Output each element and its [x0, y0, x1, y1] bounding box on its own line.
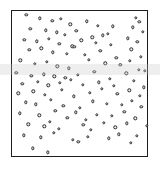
scatter-point: [85, 20, 88, 23]
scatter-point: [86, 135, 89, 138]
scatter-point: [110, 114, 113, 117]
scatter-point: [90, 36, 93, 39]
scatter-point: [45, 60, 48, 63]
scatter-point: [101, 34, 104, 37]
scatter-point: [57, 127, 60, 130]
scatter-point: [97, 81, 100, 84]
scatter-point: [142, 86, 145, 89]
scatter-point: [63, 33, 66, 36]
scatter-point: [19, 59, 22, 62]
scatter-point: [109, 43, 112, 46]
scatter-point: [94, 41, 97, 44]
scatter-point: [58, 42, 61, 45]
scatter-point: [14, 71, 17, 74]
scatter-point: [23, 38, 26, 41]
scatter-point: [114, 125, 117, 128]
scatter-point: [77, 140, 80, 143]
scatter-point: [60, 88, 63, 91]
scatter-point: [32, 89, 35, 92]
scatter-point: [49, 98, 52, 101]
scatter-point: [89, 128, 92, 131]
scatter-point: [111, 25, 114, 28]
scatter-point: [81, 83, 84, 86]
scatter-point: [42, 125, 45, 128]
scatter-point: [46, 150, 49, 153]
scatter-point: [24, 100, 27, 103]
scatter-point: [105, 102, 108, 105]
scatter-point: [65, 52, 68, 55]
scatter-point: [31, 147, 34, 150]
scatter-point: [40, 47, 43, 50]
scatter-point: [107, 136, 110, 139]
scatter-point: [134, 117, 137, 120]
scatter-point: [120, 103, 123, 106]
scatter-point: [92, 70, 95, 73]
scatter-point: [66, 116, 69, 119]
scatter-point: [128, 59, 131, 62]
scatter-point: [34, 103, 37, 106]
scatter-point: [16, 92, 19, 95]
scatter-point: [131, 25, 134, 28]
scatter-point: [100, 87, 103, 90]
scatter-point: [87, 58, 90, 61]
scatter-point: [138, 20, 141, 23]
scatter-point: [95, 113, 98, 116]
scatter-point: [29, 74, 32, 77]
scatter-point: [69, 78, 72, 81]
scatter-point: [119, 63, 122, 66]
scatter-point: [33, 62, 36, 65]
scatter-point: [55, 31, 58, 34]
scatter-point: [48, 120, 51, 123]
scatter-point: [39, 136, 42, 139]
scatter-point: [143, 69, 146, 72]
scatter-point: [145, 124, 148, 127]
scatter-point: [27, 48, 30, 51]
scatter-point: [56, 64, 59, 67]
scatter-point: [21, 82, 24, 85]
scatter-point: [79, 39, 82, 42]
scatter-point: [76, 73, 79, 76]
scatter-point: [58, 81, 61, 84]
scatter-point: [99, 49, 102, 52]
scatter-point: [127, 89, 130, 92]
scatter-point: [25, 13, 28, 16]
scatter-point: [112, 84, 115, 87]
scatter-point: [75, 29, 78, 32]
scatter-point: [22, 134, 25, 137]
scatter-point: [136, 40, 139, 43]
scatter-point: [106, 32, 109, 35]
scatter-point: [51, 19, 54, 22]
scatter-point: [44, 28, 47, 31]
scatter-point: [43, 93, 46, 96]
plot-frame: [11, 10, 148, 157]
scatter-point: [38, 17, 41, 20]
scatter-point: [47, 84, 50, 87]
scatter-point: [102, 121, 105, 124]
scatter-point: [64, 76, 67, 79]
scatter-point: [108, 77, 111, 80]
scatter-point: [117, 133, 120, 136]
scatter-point: [67, 67, 70, 70]
scatter-point: [125, 72, 128, 75]
scatter-point: [27, 122, 30, 125]
scatter-point: [103, 61, 106, 64]
scatter-point: [83, 53, 86, 56]
scatter-point: [69, 23, 72, 26]
scatter-point: [53, 75, 56, 78]
scatter-point: [47, 37, 50, 40]
scatter-point: [129, 141, 132, 144]
scatter-point: [53, 109, 56, 112]
scatter-point: [71, 138, 74, 141]
scatter-point: [126, 36, 129, 39]
scatter-point: [42, 73, 45, 76]
scatter-points-layer: [12, 11, 147, 156]
scatter-point: [130, 99, 133, 102]
scatter-point: [137, 68, 140, 71]
scatter-point: [123, 110, 126, 113]
scatter-plot-figure: [0, 0, 160, 175]
scatter-point: [88, 91, 91, 94]
scatter-point: [38, 114, 41, 117]
scatter-point: [134, 16, 137, 19]
scatter-point: [138, 94, 141, 97]
scatter-point: [29, 27, 32, 30]
